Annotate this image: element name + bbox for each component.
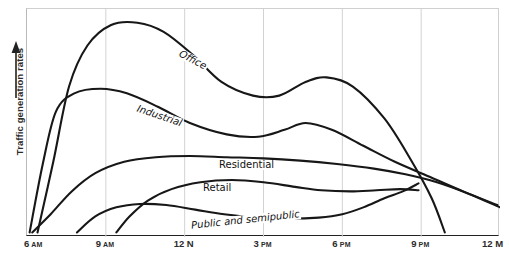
x-tick-3: 3 PM: [254, 238, 272, 249]
x-tick-number: 12: [482, 238, 493, 249]
x-tick-suffix: AM: [101, 241, 114, 248]
curve-office: [38, 22, 445, 233]
plot-area: Office Industrial Residential Retail Pub…: [26, 8, 499, 236]
chart-canvas: [27, 9, 500, 237]
y-axis-label: Traffic generation rates: [14, 27, 25, 177]
x-tick-suffix: PM: [416, 241, 429, 248]
x-tick-number: 12: [174, 238, 185, 249]
curve-label-retail: Retail: [202, 183, 232, 193]
x-tick-6: 12 M: [482, 238, 503, 249]
x-axis-ticks: 6 AM9 AM12 N3 PM6 PM9 PM12 M: [0, 238, 509, 254]
x-tick-0: 6 AM: [24, 238, 42, 249]
x-tick-suffix: PM: [259, 241, 272, 248]
x-tick-suffix: N: [184, 238, 194, 249]
x-tick-suffix: M: [493, 238, 504, 249]
curve-retail: [116, 180, 418, 232]
x-tick-4: 6 PM: [332, 238, 350, 249]
x-tick-5: 9 PM: [411, 238, 429, 249]
x-tick-suffix: AM: [29, 241, 42, 248]
x-tick-suffix: PM: [338, 241, 351, 248]
x-tick-2: 12 N: [174, 238, 194, 249]
x-tick-1: 9 AM: [96, 238, 114, 249]
y-axis-block: Traffic generation rates: [0, 0, 26, 238]
curves-group: [30, 22, 500, 233]
curve-label-residential: Residential: [218, 160, 275, 170]
traffic-generation-rates-chart: Traffic generation rates Office Industri…: [0, 0, 509, 256]
